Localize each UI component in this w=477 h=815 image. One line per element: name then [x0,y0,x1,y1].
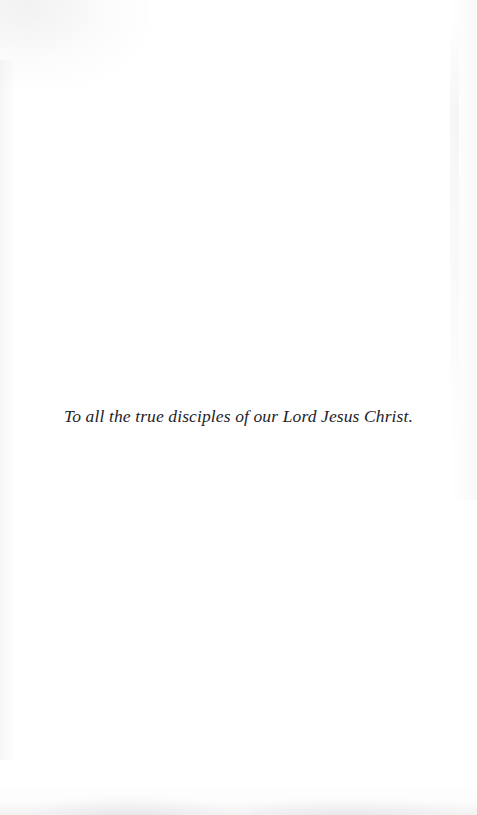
dedication-text: To all the true disciples of our Lord Je… [64,405,413,427]
dedication-page: To all the true disciples of our Lord Je… [0,0,477,815]
scan-artifact-top-left [0,0,150,90]
scan-artifact-right-band [450,20,459,440]
scan-artifact-bottom-right-blotch [250,797,465,815]
dedication-block: To all the true disciples of our Lord Je… [0,405,477,427]
scan-artifact-bottom-edge [0,785,477,815]
scan-artifact-bottom-left-blotch [28,795,228,815]
